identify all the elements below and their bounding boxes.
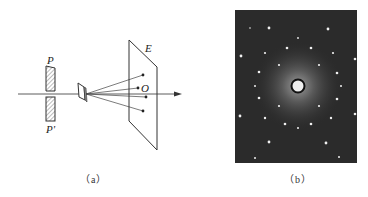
slit-p-prime [46,97,55,121]
label-p: P [46,54,54,66]
screen-e [129,40,157,150]
central-spot [292,80,305,93]
panel-a-apparatus-diagram: P P' E O （a） [0,0,200,197]
diffraction-photograph [235,10,357,163]
slit-p [46,66,55,91]
label-o: O [141,82,149,94]
diffraction-rays [86,75,146,111]
caption-a: （a） [80,171,107,186]
label-p-prime: P' [45,123,56,135]
crystal-sample [78,83,85,100]
apparatus-diagram: P P' E O [0,0,200,197]
caption-b: （b） [284,171,312,186]
label-e: E [144,42,152,54]
arrow-head-icon [174,92,182,97]
panel-b-diffraction-photo: （b） [200,0,368,197]
